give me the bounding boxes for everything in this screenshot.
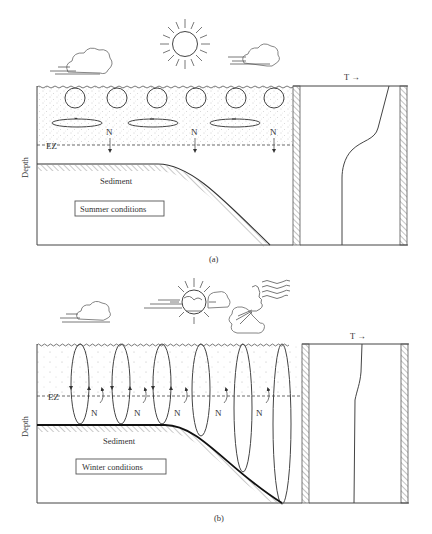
- temperature-axis-label: T →: [344, 72, 360, 82]
- wind-face-icon: [229, 280, 290, 333]
- svg-text:N: N: [270, 127, 277, 137]
- mixed-layer: [37, 87, 293, 145]
- temperature-profile-summer: [342, 86, 389, 245]
- panel-a-summer: N N N EZ Sediment Summer conditions Dept…: [20, 19, 408, 264]
- sun-behind-cloud-icon: [144, 278, 230, 324]
- depth-axis-label: Depth: [20, 415, 30, 437]
- mixed-layer: [37, 345, 302, 396]
- svg-text:N: N: [191, 127, 198, 137]
- wall-left: [302, 344, 309, 503]
- svg-text:N: N: [134, 408, 141, 418]
- svg-text:N: N: [215, 408, 222, 418]
- condition-label: Summer conditions: [80, 204, 146, 214]
- temperature-profile-winter: [354, 344, 362, 503]
- wall-right: [401, 344, 408, 503]
- panel-caption-b: (b): [214, 513, 224, 523]
- cloud-icon: [50, 48, 112, 74]
- svg-text:N: N: [91, 408, 98, 418]
- ez-label: EZ: [46, 141, 57, 151]
- sun-icon: [160, 19, 210, 69]
- temperature-axis-label: T →: [350, 331, 366, 341]
- depth-axis-label: Depth: [20, 156, 30, 178]
- panel-caption-a: (a): [209, 254, 219, 264]
- ocean-mixing-diagram: N N N EZ Sediment Summer conditions Dept…: [0, 0, 432, 534]
- svg-text:N: N: [174, 408, 181, 418]
- wall-right: [400, 86, 407, 245]
- ez-label: EZ: [48, 392, 59, 402]
- svg-text:N: N: [106, 127, 113, 137]
- cloud-icon: [60, 301, 110, 322]
- svg-text:N: N: [256, 408, 263, 418]
- cloud-icon: [228, 44, 279, 66]
- panel-b-winter: N N N N N EZ Sediment Winter conditions …: [20, 278, 409, 523]
- condition-label: Winter conditions: [82, 462, 143, 472]
- sediment-label: Sediment: [103, 436, 136, 446]
- wall-left: [293, 86, 300, 245]
- sediment-label: Sediment: [100, 176, 133, 186]
